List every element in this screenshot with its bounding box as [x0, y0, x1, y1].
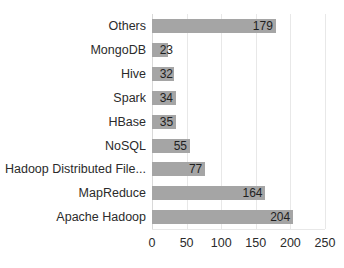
- bar-row: Hive32: [0, 62, 344, 86]
- bar-value-label: 34: [152, 91, 173, 105]
- category-label: Hive: [0, 62, 146, 86]
- category-label: NoSQL: [0, 134, 146, 158]
- x-axis-tick-labels: 050100150200250: [0, 234, 344, 254]
- bar-value-label: 23: [152, 43, 173, 57]
- bar-row: Apache Hadoop204: [0, 205, 344, 229]
- category-label: HBase: [0, 110, 146, 134]
- bar-value-label: 55: [152, 139, 187, 153]
- bar-row: Spark34: [0, 86, 344, 110]
- bar-rows: Others179MongoDB23Hive32Spark34HBase35No…: [0, 14, 344, 229]
- bar-row: Hadoop Distributed File...77: [0, 157, 344, 181]
- bar-row: Others179: [0, 14, 344, 38]
- bar-value-label: 77: [152, 162, 202, 176]
- category-label: Spark: [0, 86, 146, 110]
- category-label: Apache Hadoop: [0, 205, 146, 229]
- bar-value-label: 35: [152, 115, 173, 129]
- bar-row: MongoDB23: [0, 38, 344, 62]
- category-label: MapReduce: [0, 181, 146, 205]
- x-tick-label-250: 250: [305, 234, 344, 252]
- bar-value-label: 32: [152, 67, 173, 81]
- bar-value-label: 164: [152, 186, 262, 200]
- bar-row: HBase35: [0, 110, 344, 134]
- category-label: MongoDB: [0, 38, 146, 62]
- bar-row: NoSQL55: [0, 134, 344, 158]
- bar-value-label: 179: [152, 19, 273, 33]
- bar-value-label: 204: [152, 210, 290, 224]
- category-label: Others: [0, 14, 146, 38]
- bar-row: MapReduce164: [0, 181, 344, 205]
- category-label: Hadoop Distributed File...: [0, 157, 146, 181]
- bar-chart: Others179MongoDB23Hive32Spark34HBase35No…: [0, 0, 344, 268]
